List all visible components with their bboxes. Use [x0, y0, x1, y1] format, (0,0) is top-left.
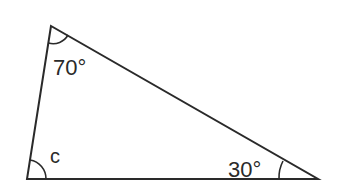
angle-label-bottom-right: 30°: [228, 157, 261, 182]
angle-arc-bottom-left: [30, 160, 46, 179]
angle-label-bottom-left: c: [50, 145, 60, 167]
angle-arc-top: [49, 35, 69, 44]
angle-label-top: 70°: [53, 55, 86, 80]
triangle-diagram: 70° c 30°: [0, 0, 341, 193]
triangle: [27, 26, 318, 179]
angle-arc-bottom-right: [279, 161, 283, 179]
